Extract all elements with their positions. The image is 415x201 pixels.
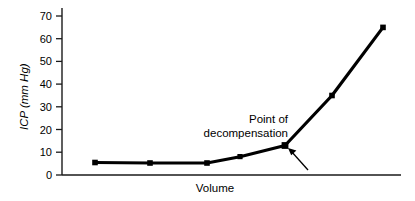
chart-page: 70 60 50 40 30 20 10 0 ICP (mm Hg) Volum…: [0, 0, 415, 201]
y-tick-label-10: 10: [40, 146, 52, 158]
data-point-7: [380, 25, 386, 31]
data-point-3: [204, 160, 210, 166]
data-point-6: [329, 93, 335, 99]
y-tick-label-70: 70: [40, 10, 52, 22]
annotation-arrow-head: [288, 148, 296, 155]
annotation-arrow-shaft: [291, 151, 308, 170]
data-point-5-decompensation: [282, 142, 289, 149]
y-tick-label-20: 20: [40, 124, 52, 136]
x-axis-title: Volume: [196, 182, 234, 194]
y-tick-label-40: 40: [40, 78, 52, 90]
data-line-icp-curve: [95, 27, 383, 163]
data-point-4: [237, 154, 242, 159]
y-axis-title: ICP (mm Hg): [18, 63, 30, 130]
annotation-line-2: decompensation: [204, 127, 288, 139]
icp-volume-chart: 70 60 50 40 30 20 10 0 ICP (mm Hg) Volum…: [0, 0, 415, 201]
y-tick-label-30: 30: [40, 101, 52, 113]
data-point-1: [92, 160, 98, 166]
y-tick-label-0: 0: [46, 169, 52, 181]
annotation-line-1: Point of: [249, 113, 289, 125]
data-point-2: [147, 160, 153, 166]
y-tick-label-50: 50: [40, 55, 52, 67]
y-tick-label-60: 60: [40, 33, 52, 45]
